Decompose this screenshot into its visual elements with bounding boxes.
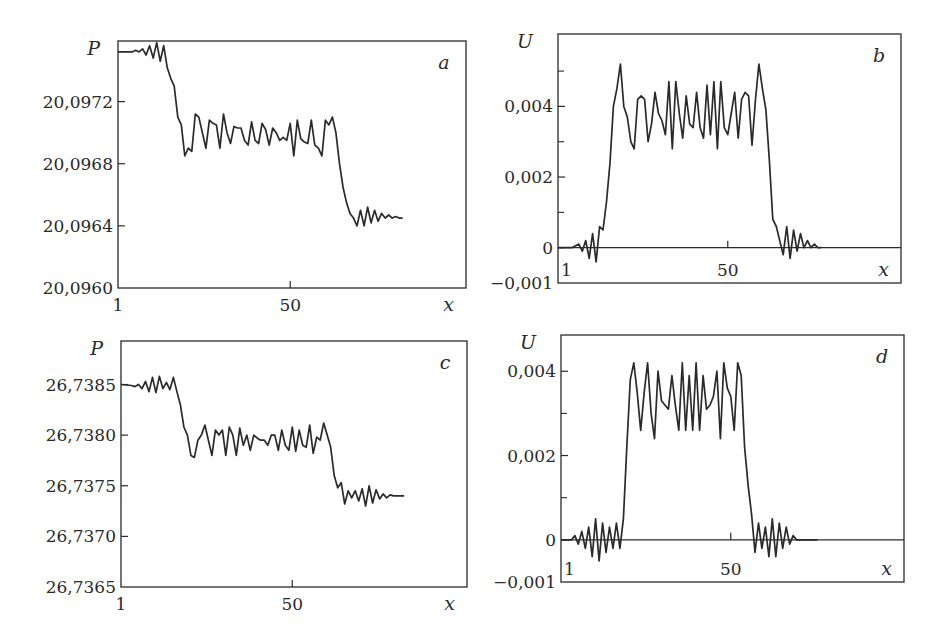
- y-tick-label: −0,001: [493, 572, 556, 592]
- y-tick-label: 26,7385: [46, 375, 116, 395]
- y-tick-label: 0: [542, 238, 553, 258]
- y-axis-title: P: [89, 337, 104, 359]
- y-tick-label: 20,0972: [43, 92, 113, 112]
- x-tick-label: 1: [561, 260, 572, 280]
- y-tick-label: 0,002: [504, 167, 553, 187]
- x-tick-label: 50: [281, 594, 303, 614]
- x-tick-label: 50: [720, 559, 742, 579]
- x-tick-label: 1: [116, 594, 127, 614]
- data-curve: [558, 64, 821, 262]
- x-axis-title: x: [881, 557, 892, 579]
- data-curve: [121, 376, 404, 506]
- y-tick-label: 0,002: [507, 446, 556, 466]
- y-axis-title: U: [520, 331, 537, 353]
- y-tick-label: 0,004: [507, 361, 556, 381]
- x-axis-title: x: [443, 293, 454, 315]
- y-tick-label: 20,0964: [43, 216, 113, 236]
- chart-panel-a: 20,096020,096420,096820,0972150Pxa: [43, 37, 466, 315]
- panel-label: d: [876, 345, 888, 367]
- data-curve: [561, 363, 817, 561]
- chart-panel-c: 26,736526,737026,737526,738026,7385150Px…: [46, 337, 467, 614]
- chart-panel-b: −0,00100,0020,004150Uxb: [490, 30, 901, 293]
- y-axis-title: P: [86, 37, 101, 59]
- figure-canvas: 20,096020,096420,096820,0972150Pxa −0,00…: [0, 0, 936, 642]
- data-curve: [118, 43, 403, 226]
- x-tick-label: 50: [279, 295, 301, 315]
- y-tick-label: 0,004: [504, 96, 553, 116]
- panel-label: c: [440, 351, 451, 373]
- x-tick-label: 1: [564, 559, 575, 579]
- panel-label: b: [873, 44, 885, 66]
- y-tick-label: 26,7370: [46, 526, 116, 546]
- y-tick-label: 26,7380: [46, 425, 116, 445]
- x-axis-title: x: [444, 592, 455, 614]
- y-tick-label: 26,7365: [46, 577, 116, 597]
- chart-panel-d: −0,00100,0020,004150Uxd: [493, 331, 904, 592]
- y-tick-label: 26,7375: [46, 476, 116, 496]
- y-tick-label: 0: [545, 530, 556, 550]
- x-axis-title: x: [878, 258, 889, 280]
- x-tick-label: 1: [113, 295, 124, 315]
- y-axis-title: U: [517, 30, 534, 52]
- panel-label: a: [438, 51, 449, 73]
- y-tick-label: 20,0968: [43, 154, 113, 174]
- y-tick-label: −0,001: [490, 273, 553, 293]
- x-tick-label: 50: [717, 260, 739, 280]
- y-tick-label: 20,0960: [43, 278, 113, 298]
